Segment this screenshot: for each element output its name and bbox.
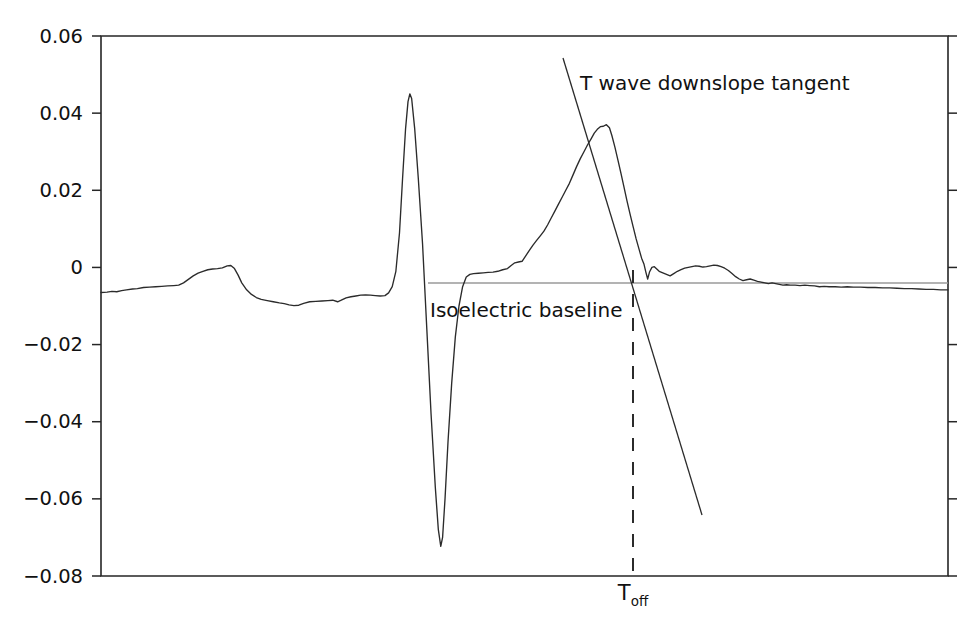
y-axis-tick-label: 0.04 [40,102,83,125]
toff-label-subscript: off [631,593,649,609]
toff-label-main: T [617,581,631,605]
tangent-annotation-label: T wave downslope tangent [579,71,850,95]
y-axis-tick-label: 0.06 [40,25,83,48]
isoelectric-baseline-label: Isoelectric baseline [430,298,622,322]
ecg-chart-svg: 0.060.040.020−0.02−0.04−0.06−0.08 T wave… [0,0,975,625]
y-axis-tick-label: 0 [71,256,83,279]
y-axis-tick-label: −0.06 [23,487,83,510]
y-axis-tick-label: −0.02 [23,333,83,356]
y-axis-tick-label: 0.02 [40,179,83,202]
y-axis-tick-label: −0.04 [23,410,83,433]
ecg-figure: 0.060.040.020−0.02−0.04−0.06−0.08 T wave… [0,0,975,625]
y-axis-tick-label: −0.08 [23,565,83,588]
